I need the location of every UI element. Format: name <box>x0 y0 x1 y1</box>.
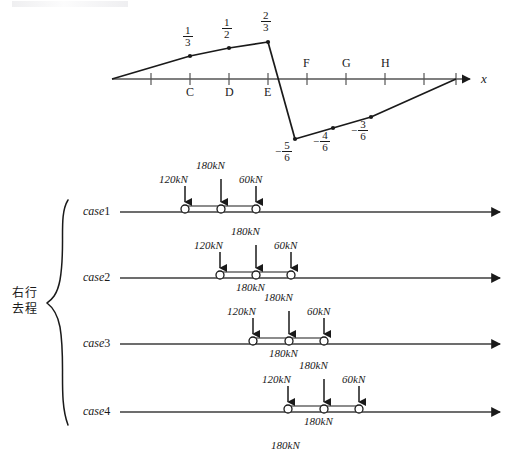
case-3-name-word: case <box>83 336 104 350</box>
ordinate-2-numerator: 1 <box>222 17 232 28</box>
case-2-load-left: 120kN <box>194 240 223 251</box>
case-4-graphics <box>120 379 500 413</box>
case-4-load-right: 60kN <box>342 374 365 385</box>
minus-sign-1: − <box>275 146 282 157</box>
ordinate-1-denominator: 3 <box>183 36 193 48</box>
axis-point-label-d: D <box>225 86 234 98</box>
case-3-name: case3 <box>83 337 110 349</box>
case-4-load-below: 180kN <box>271 440 300 451</box>
ordinate-value-1: 1 3 <box>183 25 193 48</box>
minus-sign-2: − <box>313 136 320 147</box>
case-1-load-below: 180kN <box>236 282 265 293</box>
group-label-line-1: 右行 <box>12 285 37 301</box>
group-brace <box>47 200 68 425</box>
axis-point-label-f: F <box>303 57 310 69</box>
case-4-load-middle: 180kN <box>299 360 328 371</box>
case-2-load-below: 180kN <box>269 348 298 359</box>
case-1-name: case1 <box>83 205 110 217</box>
group-label: 右行 去程 <box>12 285 37 317</box>
axis-point-label-h: H <box>381 57 390 69</box>
minus-sign-3: − <box>351 125 358 136</box>
ordinate-6-numerator: 3 <box>358 119 368 130</box>
case-1-name-number: 1 <box>104 204 110 218</box>
ordinate-5-denominator: 6 <box>320 141 330 153</box>
ordinate-value-2: 1 2 <box>222 17 232 40</box>
ordinate-value-4: − 5 6 <box>275 140 292 163</box>
ordinate-2-denominator: 2 <box>222 28 232 40</box>
case-2-name: case2 <box>83 271 110 283</box>
case-3-load-right: 60kN <box>307 306 330 317</box>
case-2-load-right: 60kN <box>274 240 297 251</box>
influence-line-axis <box>112 73 470 85</box>
case-3-name-number: 3 <box>104 336 110 350</box>
axis-label-x: x <box>481 72 487 85</box>
figure-canvas: x C D E F G H 1 3 1 2 2 3 − 5 6 <box>0 0 512 460</box>
case-1-load-middle: 180kN <box>196 160 225 171</box>
case-1-name-word: case <box>83 204 104 218</box>
case-1-load-left: 120kN <box>159 174 188 185</box>
ordinate-value-5: − 4 6 <box>313 130 330 153</box>
case-2-name-word: case <box>83 270 104 284</box>
case-4-name-number: 4 <box>104 404 110 418</box>
influence-line-drop-segment <box>268 42 295 139</box>
case-3-load-below: 180kN <box>304 416 333 427</box>
case-2-graphics <box>120 245 500 279</box>
case-1-load-right: 60kN <box>239 174 262 185</box>
ordinate-4-numerator: 5 <box>282 140 292 151</box>
axis-point-label-c: C <box>186 86 194 98</box>
axis-point-label-e: E <box>264 86 271 98</box>
case-2-name-number: 2 <box>104 270 110 284</box>
ordinate-5-numerator: 4 <box>320 130 330 141</box>
case-2-load-middle: 180kN <box>231 226 260 237</box>
case-4-load-left: 120kN <box>262 374 291 385</box>
group-label-line-2: 去程 <box>12 301 37 317</box>
ordinate-3-denominator: 3 <box>261 21 271 33</box>
ordinate-value-6: − 3 6 <box>351 119 368 142</box>
case-3-load-middle: 180kN <box>264 292 293 303</box>
ordinate-3-numerator: 2 <box>261 10 271 21</box>
ordinate-4-denominator: 6 <box>282 151 292 163</box>
case-4-name: case4 <box>83 405 110 417</box>
case-3-load-left: 120kN <box>227 306 256 317</box>
ordinate-1-numerator: 1 <box>183 25 193 36</box>
axis-point-label-g: G <box>342 57 351 69</box>
ordinate-6-denominator: 6 <box>358 130 368 142</box>
case-4-name-word: case <box>83 404 104 418</box>
ordinate-value-3: 2 3 <box>261 10 271 33</box>
